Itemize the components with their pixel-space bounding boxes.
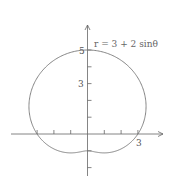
- x-axis: [11, 132, 163, 137]
- y-tick-label-5: 5: [79, 46, 85, 56]
- x-tick-label-3: 3: [136, 138, 142, 148]
- y-tick-label-3: 3: [78, 79, 84, 89]
- equation-label: r = 3 + 2 sinθ: [94, 39, 158, 49]
- polar-plot: r = 3 + 2 sinθ 5 3 3: [0, 0, 179, 184]
